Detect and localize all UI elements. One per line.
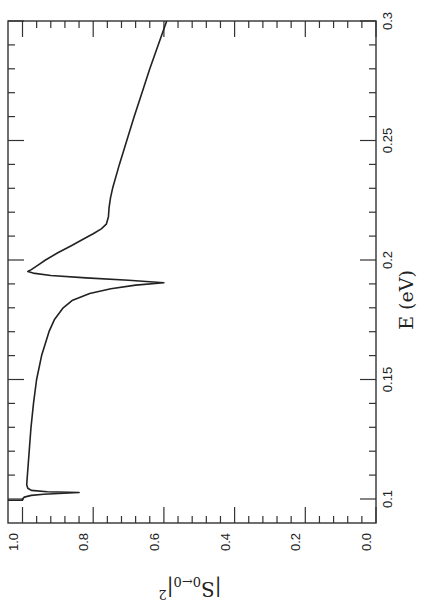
y-axis-title-sub: 0←0	[174, 574, 201, 589]
plot-frame	[8, 21, 376, 523]
tick-labels: 0.10.150.20.250.30.00.20.40.60.81.0	[6, 12, 396, 551]
prob-tick-label: 0.4	[218, 533, 233, 551]
energy-tick-label: 0.25	[380, 128, 395, 153]
data-line	[8, 21, 167, 500]
y-axis-title: |S0←0|2	[159, 574, 222, 602]
energy-tick-label: 0.3	[380, 12, 395, 30]
prob-tick-label: 1.0	[6, 533, 21, 551]
x-axis-title: E (eV)	[395, 270, 417, 330]
prob-tick-label: 0.0	[359, 533, 374, 551]
prob-tick-label: 0.6	[147, 533, 162, 551]
energy-tick-label: 0.2	[380, 251, 395, 269]
prob-tick-label: 0.2	[288, 533, 303, 551]
prob-tick-label: 0.8	[76, 533, 91, 551]
y-axis-title-close: |	[167, 576, 174, 601]
energy-tick-label: 0.1	[380, 490, 395, 508]
axis-ticks	[8, 21, 376, 523]
plot-border	[8, 21, 376, 523]
chart-canvas: 0.10.150.20.250.30.00.20.40.60.81.0 E (e…	[0, 0, 433, 608]
svg-text:|S0←0|2: |S0←0|2	[159, 574, 222, 602]
energy-tick-label: 0.15	[380, 367, 395, 392]
y-axis-title-base: |S	[201, 576, 221, 601]
y-axis-title-sup: 2	[159, 587, 167, 602]
